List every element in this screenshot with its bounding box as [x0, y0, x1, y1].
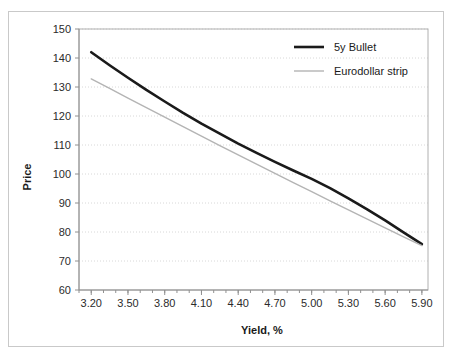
x-axis-tick-label: 4.70	[264, 297, 285, 309]
y-axis-tick-label: 150	[53, 23, 71, 35]
x-axis-tick-label: 4.10	[191, 297, 212, 309]
y-axis-tick-label: 60	[59, 284, 71, 296]
price-yield-line-chart: 60708090100110120130140150 3.203.503.804…	[9, 12, 445, 348]
series-line-5y-bullet	[91, 52, 422, 244]
y-axis-tick-label: 100	[53, 168, 71, 180]
x-axis-tick-label: 5.30	[338, 297, 359, 309]
x-axis-tick-label: 5.90	[411, 297, 432, 309]
y-axis-tick-label: 90	[59, 197, 71, 209]
legend-label: 5y Bullet	[334, 41, 376, 53]
x-axis-tick-label: 3.50	[117, 297, 138, 309]
x-axis-tick-label: 5.60	[374, 297, 395, 309]
y-axis-tick-labels-group: 60708090100110120130140150	[53, 23, 71, 296]
series-lines-group	[91, 52, 422, 245]
x-axis-tick-label: 4.40	[227, 297, 248, 309]
y-axis-tick-label: 120	[53, 110, 71, 122]
chart-legend: 5y BulletEurodollar strip	[294, 41, 408, 77]
y-axis-tick-label: 70	[59, 255, 71, 267]
y-axis-tick-label: 130	[53, 81, 71, 93]
x-axis-tick-label: 5.00	[301, 297, 322, 309]
y-axis-tick-label: 140	[53, 52, 71, 64]
x-axis-ticks-group	[79, 290, 422, 295]
series-line-eurodollar-strip	[91, 79, 422, 246]
gridlines-group	[79, 29, 428, 261]
y-axis-ticks-group	[75, 29, 79, 290]
y-axis-tick-label: 80	[59, 226, 71, 238]
y-axis-tick-label: 110	[53, 139, 71, 151]
chart-figure: 60708090100110120130140150 3.203.503.804…	[8, 11, 444, 347]
x-axis-tick-label: 3.80	[154, 297, 175, 309]
y-axis-title: Price	[21, 164, 33, 191]
x-axis-title: Yield, %	[241, 324, 283, 336]
legend-label: Eurodollar strip	[334, 65, 408, 77]
x-axis-tick-labels-group: 3.203.503.804.104.404.705.005.305.605.90	[81, 297, 433, 309]
x-axis-tick-label: 3.20	[81, 297, 102, 309]
